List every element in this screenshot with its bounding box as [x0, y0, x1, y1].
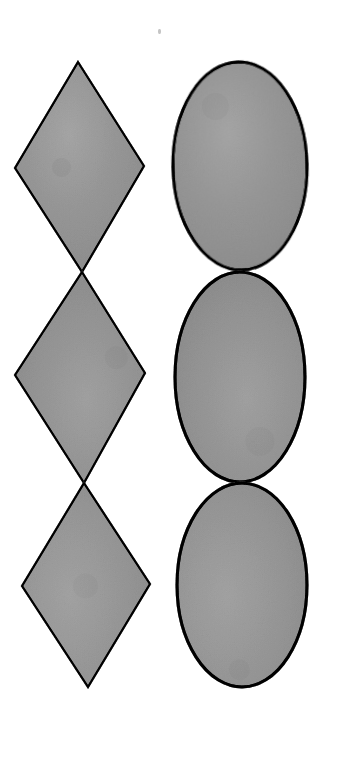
figure-canvas	[0, 0, 342, 761]
shapes-illustration	[0, 0, 342, 761]
diamond-shape-3	[22, 483, 150, 687]
diamond-shape-1	[15, 62, 144, 272]
diamond-shape-2	[15, 272, 145, 483]
stray-speck-artifact	[158, 29, 161, 34]
ellipse-column	[171, 61, 309, 687]
diamond-column	[15, 62, 150, 687]
ellipse-shape-3	[177, 483, 307, 687]
ellipse-shape-1	[171, 61, 309, 271]
ellipse-shape-2	[175, 272, 305, 482]
